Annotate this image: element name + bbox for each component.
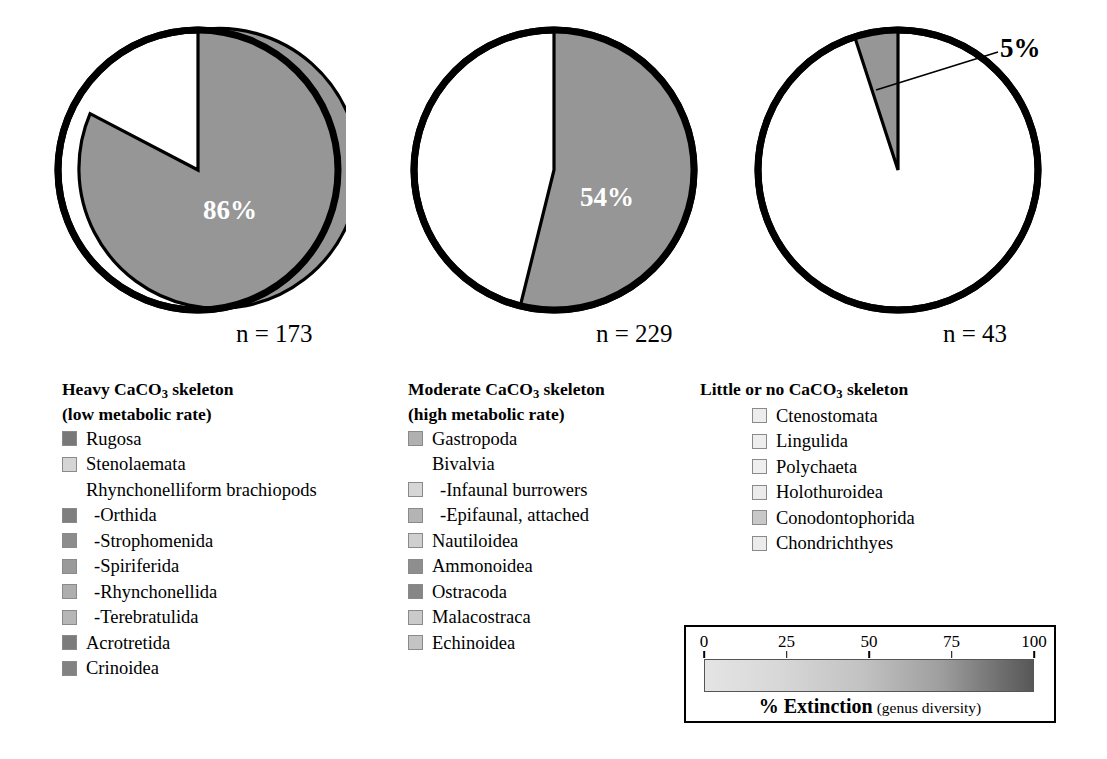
- legend-item-gastropoda: Gastropoda: [408, 426, 738, 452]
- scale-tick-50: 50: [861, 632, 878, 652]
- legend-moderate-title-text: Moderate CaCO: [408, 379, 533, 399]
- swatch-epifaunal-attached: [408, 508, 423, 523]
- legend-item-orthida: -Orthida: [62, 503, 392, 529]
- scale-tick-labels: 0 25 50 75 100: [704, 632, 1034, 658]
- legend-label-stenolaemata: Stenolaemata: [86, 454, 186, 474]
- legend-label-strophomenida: -Strophomenida: [86, 531, 213, 551]
- scale-caption-bold: % Extinction: [759, 695, 873, 717]
- legend-group-moderate: Moderate CaCO3 skeleton (high metabolic …: [408, 378, 738, 656]
- swatch-polychaeta: [752, 459, 767, 474]
- scale-tickmark-25: [786, 651, 788, 658]
- swatch-ctenostomata: [752, 408, 767, 423]
- swatch-spiriferida: [62, 559, 77, 574]
- legend-label-terebratulida: -Terebratulida: [86, 607, 199, 627]
- swatch-conodontophorida: [752, 510, 767, 525]
- swatch-malacostraca: [408, 610, 423, 625]
- swatch-infaunal-burrowers: [408, 482, 423, 497]
- legend-item-chondrichthyes: Chondrichthyes: [752, 531, 1082, 557]
- legend-item-infaunal-burrowers: -Infaunal burrowers: [408, 477, 738, 503]
- legend-label-rhynchonellida: -Rhynchonellida: [86, 582, 217, 602]
- legend-label-ostracoda: Ostracoda: [432, 582, 507, 602]
- legend-label-rugosa: Rugosa: [86, 429, 142, 449]
- pie-heavy-svg: [50, 22, 346, 318]
- legend-group-little: Little or no CaCO3 skeleton Ctenostomata…: [752, 378, 1082, 556]
- legend-item-terebratulida: -Terebratulida: [62, 605, 392, 631]
- scale-tickmark-100: [1033, 651, 1035, 658]
- legend-item-lingulida: Lingulida: [752, 429, 1082, 455]
- scale-tickmark-50: [868, 651, 870, 658]
- scale-tickmark-0: [703, 651, 705, 658]
- swatch-placeholder-brachiopods: [62, 482, 77, 497]
- legend-label-gastropoda: Gastropoda: [432, 429, 517, 449]
- legend-little-list: Ctenostomata Lingulida Polychaeta Holoth…: [752, 403, 1082, 556]
- pie-chart-little: 5% n = 43: [728, 0, 1068, 372]
- legend-item-stenolaemata: Stenolaemata: [62, 452, 392, 478]
- legend-heavy-list: Rugosa Stenolaemata Rhynchonelliform bra…: [62, 426, 392, 681]
- legend-label-conodontophorida: Conodontophorida: [776, 508, 915, 528]
- legend-heavy-title-tail: skeleton: [168, 379, 234, 399]
- legend-item-rhynchonelliform-brachiopods: Rhynchonelliform brachiopods: [62, 477, 392, 503]
- legend-label-echinoidea: Echinoidea: [432, 633, 515, 653]
- figure-caption: [0, 734, 1107, 759]
- legend-moderate-title-line2: (high metabolic rate): [408, 403, 738, 426]
- legend-label-chondrichthyes: Chondrichthyes: [776, 533, 893, 553]
- legend-label-nautiloidea: Nautiloidea: [432, 531, 518, 551]
- swatch-crinoidea: [62, 661, 77, 676]
- legend-label-crinoidea: Crinoidea: [86, 658, 159, 678]
- legend-label-polychaeta: Polychaeta: [776, 457, 857, 477]
- legend-item-holothuroidea: Holothuroidea: [752, 480, 1082, 506]
- legend-moderate-list: Gastropoda Bivalvia -Infaunal burrowers …: [408, 426, 738, 656]
- legend-label-lingulida: Lingulida: [776, 431, 848, 451]
- legend-item-nautiloidea: Nautiloidea: [408, 528, 738, 554]
- scale-tick-25: 25: [778, 632, 795, 652]
- swatch-ostracoda: [408, 584, 423, 599]
- legend-heavy-title-line1: Heavy CaCO3 skeleton: [62, 378, 392, 403]
- legend-item-bivalvia: Bivalvia: [408, 452, 738, 478]
- legend-item-ammonoidea: Ammonoidea: [408, 554, 738, 580]
- swatch-acrotretida: [62, 635, 77, 650]
- legend-item-conodontophorida: Conodontophorida: [752, 505, 1082, 531]
- pie-little-n-label: n = 43: [943, 320, 1007, 348]
- swatch-chondrichthyes: [752, 536, 767, 551]
- pie-moderate-graphic: [406, 22, 702, 318]
- legend-group-heavy: Heavy CaCO3 skeleton (low metabolic rate…: [62, 378, 392, 681]
- pie-heavy-n-label: n = 173: [236, 320, 313, 348]
- pie-little-graphic: [750, 22, 1046, 318]
- legend-label-bivalvia: Bivalvia: [432, 454, 495, 474]
- scale-gradient-strip: [704, 659, 1034, 692]
- swatch-rhynchonellida: [62, 584, 77, 599]
- legend-heavy-title-text: Heavy CaCO: [62, 379, 162, 399]
- legend-item-ostracoda: Ostracoda: [408, 579, 738, 605]
- legend-item-rhynchonellida: -Rhynchonellida: [62, 579, 392, 605]
- swatch-stenolaemata: [62, 457, 77, 472]
- swatch-gastropoda: [408, 431, 423, 446]
- scale-caption: % Extinction (genus diversity): [686, 695, 1054, 718]
- swatch-rugosa: [62, 431, 77, 446]
- swatch-ammonoidea: [408, 559, 423, 574]
- legend-little-title-subscript: 3: [836, 387, 842, 401]
- pie-chart-heavy: 86% n = 173: [28, 0, 368, 372]
- scale-caption-sub: (genus diversity): [877, 699, 982, 716]
- legend-heavy-title-line2: (low metabolic rate): [62, 403, 392, 426]
- legend-label-ammonoidea: Ammonoidea: [432, 556, 533, 576]
- scale-tick-75: 75: [943, 632, 960, 652]
- swatch-nautiloidea: [408, 533, 423, 548]
- legend-label-orthida: -Orthida: [86, 505, 157, 525]
- swatch-placeholder-bivalvia: [408, 457, 423, 472]
- legend-item-rugosa: Rugosa: [62, 426, 392, 452]
- pie-little-svg: [750, 22, 1046, 318]
- swatch-holothuroidea: [752, 485, 767, 500]
- legend-label-rhynchonelliform-brachiopods: Rhynchonelliform brachiopods: [86, 480, 317, 500]
- pie-chart-row: 86% n = 173 54% n = 229 5%: [0, 0, 1107, 372]
- legend-label-malacostraca: Malacostraca: [432, 607, 531, 627]
- extinction-color-scale: 0 25 50 75 100 % Extinction (genus diver…: [684, 625, 1056, 723]
- legend-label-infaunal-burrowers: -Infaunal burrowers: [432, 480, 587, 500]
- legend-item-strophomenida: -Strophomenida: [62, 528, 392, 554]
- scale-tick-0: 0: [700, 632, 709, 652]
- legend-label-acrotretida: Acrotretida: [86, 633, 170, 653]
- pie-heavy-graphic: [50, 22, 346, 318]
- swatch-orthida: [62, 508, 77, 523]
- swatch-echinoidea: [408, 635, 423, 650]
- legend-item-epifaunal-attached: -Epifaunal, attached: [408, 503, 738, 529]
- legend-little-title-line1: Little or no CaCO3 skeleton: [700, 378, 1082, 403]
